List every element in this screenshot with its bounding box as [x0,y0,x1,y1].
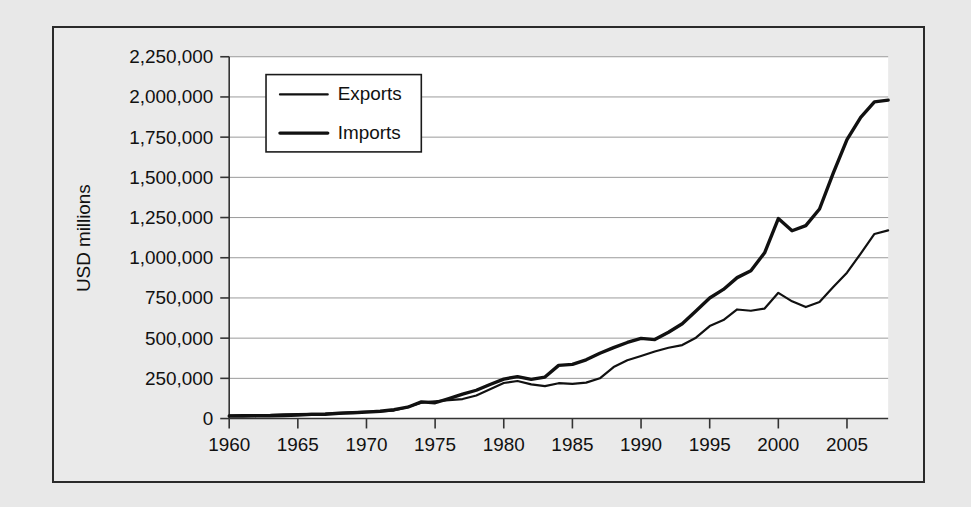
y-tick-label: 2,250,000 [129,46,213,67]
chart-legend: ExportsImports [266,75,421,152]
x-tick-label: 1995 [689,434,731,455]
y-tick-label: 1,250,000 [129,207,213,228]
x-tick-label: 1985 [551,434,593,455]
x-tick-label: 1975 [414,434,456,455]
y-tick-label: 1,000,000 [129,247,213,268]
x-tick-label: 2005 [826,434,868,455]
y-tick-label: 250,000 [145,368,213,389]
x-tick-label: 2000 [757,434,799,455]
y-tick-label: 0 [203,408,214,429]
x-tick-label: 1980 [483,434,525,455]
y-tick-label: 500,000 [145,328,213,349]
x-tick-label: 1965 [277,434,319,455]
y-axis-tick-labels: 0250,000500,000750,0001,000,0001,250,000… [129,46,213,429]
legend-label-imports: Imports [338,122,401,143]
y-tick-label: 2,000,000 [129,86,213,107]
legend-label-exports: Exports [338,83,402,104]
figure-frame: 0250,000500,000750,0001,000,0001,250,000… [52,26,925,483]
x-tick-label: 1990 [620,434,662,455]
y-tick-label: 1,500,000 [129,167,213,188]
x-axis-ticks [229,419,847,429]
line-chart: 0250,000500,000750,0001,000,0001,250,000… [54,28,923,481]
x-tick-label: 1960 [208,434,250,455]
y-tick-label: 750,000 [145,287,213,308]
y-tick-label: 1,750,000 [129,127,213,148]
y-axis-ticks [220,57,229,419]
y-axis-title: USD millions [73,184,94,292]
x-tick-label: 1970 [345,434,387,455]
x-axis-tick-labels: 1960196519701975198019851990199520002005 [208,434,868,455]
